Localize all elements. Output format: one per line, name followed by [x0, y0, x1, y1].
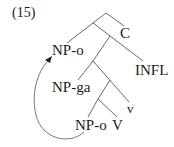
node-v-big: V: [112, 118, 123, 133]
node-v-small: v: [127, 102, 134, 115]
example-number: (15): [12, 6, 35, 20]
node-np-o-bottom: NP-o: [75, 118, 107, 133]
node-np-o-top: NP-o: [52, 43, 84, 58]
arrow-head-icon: [45, 56, 52, 63]
syntax-tree-diagram: (15) C NP-o INFL NP-ga v NP-o V: [0, 0, 174, 147]
node-np-ga: NP-ga: [52, 80, 90, 95]
node-c: C: [120, 26, 130, 41]
node-infl: INFL: [135, 63, 168, 78]
